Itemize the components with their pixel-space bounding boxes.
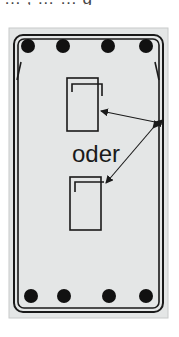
- rebar-top-3: [101, 39, 115, 53]
- oder-label: oder: [72, 142, 120, 166]
- reinforcement-cross-section-diagram: [0, 0, 179, 337]
- rebar-top-1: [21, 39, 35, 53]
- rebar-bottom-4: [139, 289, 153, 303]
- rebar-bottom-1: [24, 289, 38, 303]
- section-panel: [9, 28, 168, 318]
- rebar-bottom-3: [102, 289, 116, 303]
- rebar-bottom-2: [57, 289, 71, 303]
- rebar-top-2: [56, 39, 70, 53]
- rebar-top-4: [139, 39, 153, 53]
